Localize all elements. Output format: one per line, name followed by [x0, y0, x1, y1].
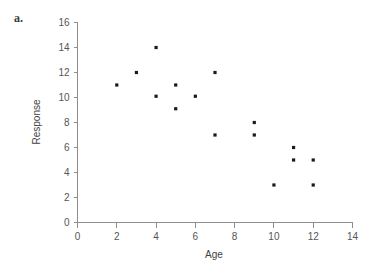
- data-point: [312, 158, 315, 161]
- y-tick-label: 6: [64, 142, 70, 153]
- x-tick-label: 8: [232, 231, 238, 242]
- y-axis-title: Response: [31, 99, 42, 144]
- y-tick-label: 4: [64, 167, 70, 178]
- data-point: [272, 183, 275, 186]
- scatter-plot-figure: a. 0246810121416 02468101214 Age Respons…: [0, 0, 371, 278]
- data-point: [154, 46, 157, 49]
- data-point: [253, 133, 256, 136]
- x-tick-label: 12: [308, 231, 320, 242]
- x-tick-label: 10: [268, 231, 280, 242]
- x-tick-label: 14: [347, 231, 359, 242]
- data-point: [174, 107, 177, 110]
- y-tick-label: 12: [58, 67, 70, 78]
- data-point: [174, 83, 177, 86]
- x-tick-label: 2: [114, 231, 120, 242]
- y-axis: 0246810121416: [58, 17, 77, 228]
- y-tick-label: 16: [58, 17, 70, 28]
- y-tick-label: 10: [58, 92, 70, 103]
- data-point: [213, 133, 216, 136]
- data-point: [194, 95, 197, 98]
- plot-area: 0246810121416 02468101214 Age Response: [0, 0, 371, 278]
- data-point: [135, 71, 138, 74]
- x-tick-label: 4: [153, 231, 159, 242]
- data-point: [292, 158, 295, 161]
- x-axis: 02468101214: [75, 223, 359, 242]
- data-point: [312, 183, 315, 186]
- data-point: [292, 146, 295, 149]
- data-point: [253, 121, 256, 124]
- x-tick-label: 6: [193, 231, 199, 242]
- y-tick-label: 0: [64, 217, 70, 228]
- y-tick-label: 8: [64, 117, 70, 128]
- data-point: [154, 95, 157, 98]
- data-point: [115, 83, 118, 86]
- x-axis-title: Age: [205, 249, 223, 260]
- x-tick-label: 0: [75, 231, 81, 242]
- y-tick-label: 2: [64, 192, 70, 203]
- y-tick-label: 14: [58, 42, 70, 53]
- data-points: [115, 46, 315, 187]
- data-point: [213, 71, 216, 74]
